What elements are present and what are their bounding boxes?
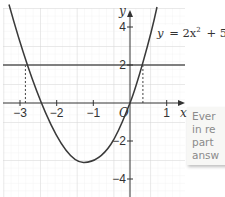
x-tick-label: 1	[163, 106, 170, 120]
callout-line: Ever	[192, 110, 225, 123]
origin-label: O	[119, 106, 129, 120]
x-axis-label: x	[180, 106, 187, 120]
y-tick-label: 2	[119, 58, 126, 72]
hint-callout-box: Ever in re part answ	[187, 107, 225, 165]
x-tick-label: −3	[13, 106, 27, 120]
x-tick-label: −1	[86, 106, 100, 120]
callout-line: in re	[192, 123, 225, 136]
y-tick-label: −4	[112, 172, 126, 186]
x-tick-label: −2	[50, 106, 64, 120]
quadratic-graph: −3 −2 −1 1 4 2 −2 −4 y x O y = 2x2 + 5x	[0, 0, 225, 197]
y-tick-label: −2	[112, 134, 126, 148]
callout-line: answ	[192, 149, 225, 162]
callout-line: part	[192, 136, 225, 149]
y-tick-label: 4	[119, 20, 126, 34]
y-axis-label: y	[118, 4, 126, 18]
